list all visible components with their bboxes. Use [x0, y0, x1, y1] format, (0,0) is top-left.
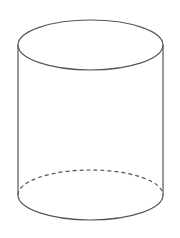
top-face: [18, 20, 163, 70]
bottom-front-arc: [18, 195, 163, 220]
bottom-back-arc: [18, 170, 163, 195]
cylinder-diagram: [0, 0, 180, 238]
